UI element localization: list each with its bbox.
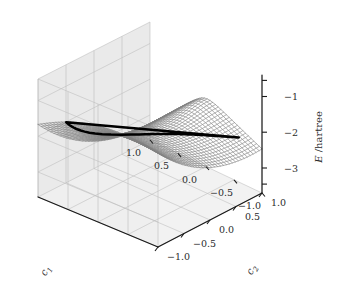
y-axis-tick-label-4: 1.0 xyxy=(271,197,286,208)
x-axis-title: c1 xyxy=(38,263,55,278)
z-axis-tick-label-1: −2 xyxy=(284,127,298,138)
y-axis-tick-label-0: −1.0 xyxy=(167,251,190,262)
svg-text:c1: c1 xyxy=(38,263,55,278)
x-axis-tick-label-4: −1.0 xyxy=(238,200,261,211)
figure-canvas: 1.00.50.0−0.5−1.0−1.0−0.50.00.51.0−1−2−3… xyxy=(0,0,340,300)
z-axis-tick-label-0: −1 xyxy=(284,91,298,102)
y-axis-tick-label-3: 0.5 xyxy=(245,211,260,222)
x-axis-tick-label-2: 0.0 xyxy=(182,174,197,185)
x-axis-tick-label-0: 1.0 xyxy=(126,147,141,158)
x-axis-tick-label-3: −0.5 xyxy=(210,187,233,198)
svg-text:E /hartree: E /hartree xyxy=(313,111,324,164)
surface-plot-svg: 1.00.50.0−0.5−1.0−1.0−0.50.00.51.0−1−2−3… xyxy=(0,0,340,300)
z-axis-tick-label-2: −3 xyxy=(284,163,298,174)
y-axis-tick-label-2: 0.0 xyxy=(219,224,234,235)
z-axis-title: E /hartree xyxy=(313,111,324,164)
svg-text:c2: c2 xyxy=(244,262,261,278)
y-axis-tick-label-1: −0.5 xyxy=(193,238,216,249)
x-axis-tick-label-1: 0.5 xyxy=(154,160,169,171)
y-axis-title: c2 xyxy=(244,262,261,278)
